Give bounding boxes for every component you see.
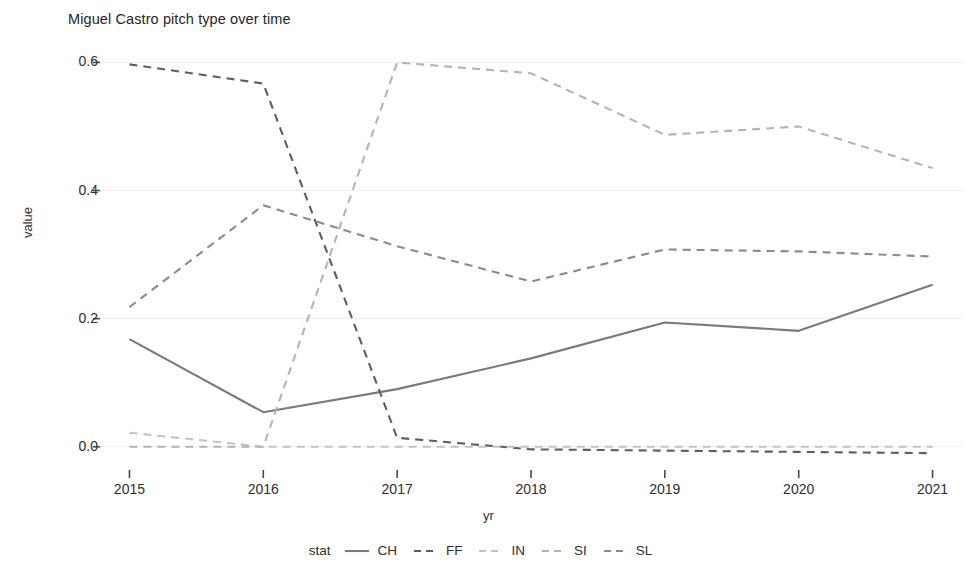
y-tick-marks xyxy=(93,62,100,446)
y-tick-label: 0.2 xyxy=(52,310,98,326)
legend-label: CH xyxy=(377,543,397,558)
series-lines xyxy=(129,62,932,453)
series-line-in xyxy=(129,433,932,447)
legend-label: SI xyxy=(574,543,587,558)
chart-legend: stat CHFFINSISL xyxy=(0,543,977,558)
legend-key-si-icon xyxy=(541,545,567,557)
series-line-sl xyxy=(129,205,932,307)
x-tick-label: 2015 xyxy=(94,481,164,497)
legend-entry-sl[interactable]: SL xyxy=(603,543,653,558)
chart-container: Miguel Castro pitch type over time value… xyxy=(0,0,977,581)
x-tick-marks xyxy=(129,470,932,478)
legend-entry-ff[interactable]: FF xyxy=(413,543,463,558)
series-line-si xyxy=(129,62,932,446)
legend-label: FF xyxy=(446,543,463,558)
legend-title: stat xyxy=(309,543,331,558)
y-tick-label: 0.6 xyxy=(52,53,98,69)
x-tick-label: 2021 xyxy=(898,481,968,497)
legend-key-sl-icon xyxy=(603,545,629,557)
legend-key-in-icon xyxy=(478,545,504,557)
legend-label: SL xyxy=(636,543,653,558)
gridlines xyxy=(100,62,962,446)
x-tick-label: 2016 xyxy=(228,481,298,497)
y-tick-label: 0.4 xyxy=(52,182,98,198)
y-tick-label: 0.0 xyxy=(52,438,98,454)
x-tick-label: 2019 xyxy=(630,481,700,497)
legend-entry-si[interactable]: SI xyxy=(541,543,587,558)
series-line-ff xyxy=(129,64,932,453)
legend-key-ch-icon xyxy=(344,545,370,557)
legend-entry-ch[interactable]: CH xyxy=(344,543,397,558)
legend-label: IN xyxy=(511,543,525,558)
legend-entry-in[interactable]: IN xyxy=(478,543,525,558)
legend-key-ff-icon xyxy=(413,545,439,557)
series-line-ch xyxy=(129,285,932,412)
x-axis-label: yr xyxy=(0,508,977,523)
x-tick-label: 2020 xyxy=(764,481,834,497)
x-tick-label: 2017 xyxy=(362,481,432,497)
x-tick-label: 2018 xyxy=(496,481,566,497)
